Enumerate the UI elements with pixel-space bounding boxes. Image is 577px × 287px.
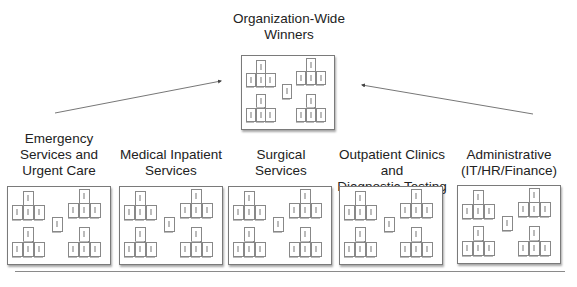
arrow-right-to-org	[362, 85, 533, 114]
arrow-left-to-org	[55, 81, 221, 113]
bottom-divider	[15, 271, 565, 272]
arrows-layer	[0, 0, 577, 287]
